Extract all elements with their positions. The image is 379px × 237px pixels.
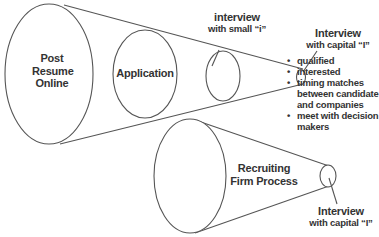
criteria-text: meet with decision — [297, 110, 379, 121]
bottom-ellipse-small — [320, 165, 336, 187]
label-line: Firm Process — [227, 175, 301, 188]
label-line: Interview — [303, 205, 379, 218]
interview-criteria-list: qualified interested timing matches betw… — [287, 55, 379, 132]
label-small-interview: interview with small “i” — [198, 11, 276, 35]
bottom-ellipse-large — [154, 119, 226, 233]
criteria-text: and companies — [297, 99, 379, 110]
criteria-text: interested — [297, 66, 340, 77]
stage-ellipse-small-interview — [206, 51, 240, 101]
criteria-item: interested — [287, 66, 379, 77]
label-application: Application — [114, 67, 176, 80]
label-post-resume-online: Post Resume Online — [32, 52, 72, 90]
recruiting-funnel-diagram: Post Resume Online Application interview… — [0, 0, 379, 237]
label-line: Recruiting — [227, 162, 301, 175]
label-line: with capital “I” — [297, 40, 379, 51]
label-line: interview — [198, 11, 276, 24]
criteria-item: qualified — [287, 55, 379, 66]
label-line: Resume — [32, 65, 72, 78]
label-bottom-capital-interview: Interview with capital “I” — [303, 205, 379, 229]
label-line: with small “i” — [198, 24, 276, 35]
criteria-text: qualified — [297, 55, 334, 66]
criteria-item: meet with decision makers — [287, 110, 379, 132]
criteria-text: makers — [297, 121, 379, 132]
label-line: Application — [114, 67, 176, 80]
label-capital-interview: Interview with capital “I” — [297, 27, 379, 51]
label-line: Online — [32, 77, 72, 90]
label-line: Post — [32, 52, 72, 65]
label-line: with capital “I” — [303, 218, 379, 229]
label-line: Interview — [297, 27, 379, 40]
label-recruiting-firm-process: Recruiting Firm Process — [227, 162, 301, 187]
criteria-item: timing matches between candidate and com… — [287, 77, 379, 110]
criteria-text: timing matches — [297, 77, 379, 88]
criteria-text: between candidate — [297, 88, 379, 99]
